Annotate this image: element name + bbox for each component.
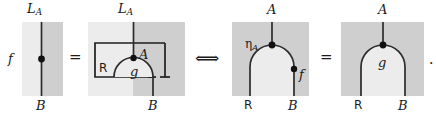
panel-3-unit-label-eta: ηA [245, 38, 258, 51]
panel-4-node-label-g: g [378, 56, 386, 69]
panel-3-node-label-f: f [299, 68, 304, 81]
panel-3-top-label-A: A [267, 3, 276, 16]
panel-1-morphism-f [22, 22, 63, 96]
panel-4-bottom-right-label-B: B [398, 99, 408, 112]
panel-3-bottom-left-label-R: R [244, 99, 252, 111]
panel-3-bottom-right-label-B: B [288, 99, 298, 112]
panel-2-bottom-label-B: B [148, 99, 158, 112]
node-g-dot [380, 42, 387, 49]
panel-2-graphic [88, 22, 185, 96]
node-g-dot [130, 55, 136, 61]
panel-2-boxed-cap-g [88, 22, 185, 96]
node-f-dot [291, 66, 297, 72]
panel-1-top-label: LA [27, 2, 42, 17]
panel-2-node-label-g: g [130, 65, 138, 78]
panel-2-region-label-R: R [99, 62, 107, 74]
string-diagram-figure: LA f B = LA R A g B ⟺ [0, 0, 436, 119]
node-eta-dot [269, 42, 276, 49]
panel-2-wire-label-A: A [139, 48, 148, 61]
panel-1-node-label-f: f [8, 52, 13, 65]
equals-sign-2: = [320, 50, 333, 65]
panel-3-graphic [232, 22, 309, 96]
region-light-inner [361, 45, 405, 96]
node-f-dot [38, 56, 45, 63]
trailing-period: . [429, 52, 433, 66]
panel-4-bottom-left-label-R: R [354, 99, 362, 111]
region-light-inner [250, 45, 294, 96]
panel-3-unit-eta-cap-f [232, 22, 309, 96]
panel-1-bottom-label-B: B [36, 99, 46, 112]
panel-2-top-label: LA [118, 2, 133, 17]
iff-double-arrow: ⟺ [195, 50, 219, 67]
panel-1-graphic [22, 22, 63, 96]
equals-sign-1: = [69, 50, 82, 65]
panel-4-top-label-A: A [378, 3, 387, 16]
